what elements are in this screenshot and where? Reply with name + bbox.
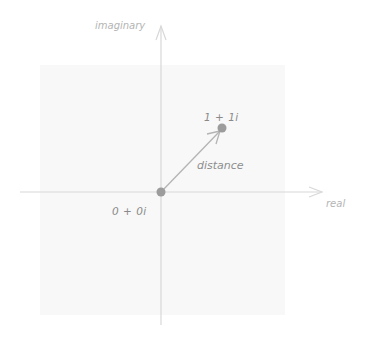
real-axis-label: real xyxy=(326,199,345,209)
complex-plane-diagram xyxy=(0,0,367,338)
point-1-plus-1i xyxy=(218,124,227,133)
point-1-plus-1i-label: 1 + 1i xyxy=(204,112,239,123)
origin-point xyxy=(157,188,166,197)
imaginary-axis-label: imaginary xyxy=(95,21,145,31)
distance-label: distance xyxy=(197,160,244,171)
origin-point-label: 0 + 0i xyxy=(112,206,147,217)
